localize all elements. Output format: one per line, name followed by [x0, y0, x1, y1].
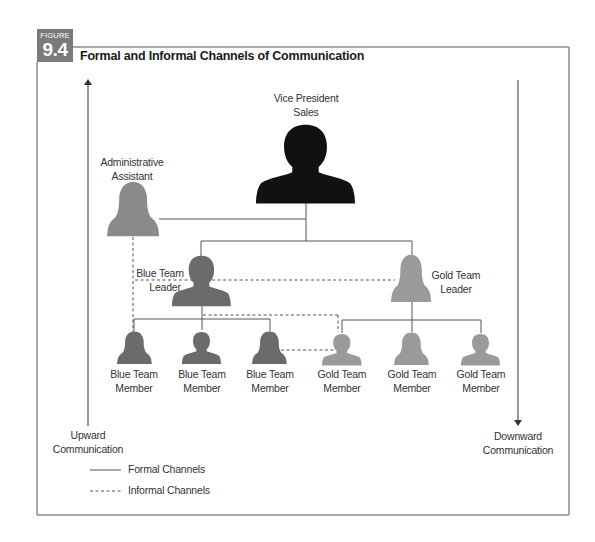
vp-label-line1: Vice President [274, 91, 339, 105]
blue-member-3-silhouette-icon [252, 332, 287, 364]
downward-label-line1: Downward [483, 429, 553, 443]
blue-leader-label: Blue Team Leader [136, 266, 184, 294]
org-chart-diagram [0, 0, 595, 542]
admin-label-line1: Administrative [100, 155, 163, 169]
gold-leader-label: Gold Team Leader [432, 268, 481, 296]
legend-formal-label: Formal Channels [128, 463, 205, 475]
vp-label-line2: Sales [274, 105, 339, 119]
member-label-line1: Blue Team [178, 367, 226, 381]
member-label-line2: Member [457, 381, 506, 395]
admin-label-line2: Assistant [100, 169, 163, 183]
member-label-line1: Gold Team [318, 367, 367, 381]
member-label: Gold Team Member [318, 367, 367, 395]
gold-leader-silhouette-icon [391, 255, 431, 302]
formal-connectors [134, 203, 481, 333]
gold-leader-label-line1: Gold Team [432, 268, 481, 282]
member-label: Blue Team Member [110, 367, 158, 395]
member-label-line1: Gold Team [388, 367, 437, 381]
vp-silhouette-icon [256, 125, 355, 204]
member-label-line1: Blue Team [246, 367, 294, 381]
upward-label-line1: Upward [53, 428, 123, 442]
blue-leader-label-line2: Leader [136, 280, 184, 294]
figure-container: FIGURE 9.4 Formal and Informal Channels … [0, 0, 595, 542]
blue-member-2-silhouette-icon [182, 332, 221, 364]
blue-member-1-silhouette-icon [117, 332, 152, 364]
member-label: Blue Team Member [178, 367, 226, 395]
member-label-line1: Gold Team [457, 367, 506, 381]
member-label-line2: Member [110, 381, 158, 395]
member-label: Gold Team Member [388, 367, 437, 395]
admin-silhouette-icon [107, 182, 159, 236]
upward-communication-label: Upward Communication [53, 428, 123, 456]
gold-member-2-silhouette-icon [394, 333, 429, 365]
legend-informal-label: Informal Channels [128, 484, 210, 496]
admin-label: Administrative Assistant [100, 155, 163, 183]
gold-leader-label-line2: Leader [432, 282, 481, 296]
downward-label-line2: Communication [483, 443, 553, 457]
member-label-line1: Blue Team [110, 367, 158, 381]
downward-communication-label: Downward Communication [483, 429, 553, 457]
member-label-line2: Member [178, 381, 226, 395]
vp-label: Vice President Sales [274, 91, 339, 119]
gold-member-3-silhouette-icon [461, 334, 500, 365]
member-label: Gold Team Member [457, 367, 506, 395]
member-label: Blue Team Member [246, 367, 294, 395]
member-label-line2: Member [246, 381, 294, 395]
member-label-line2: Member [388, 381, 437, 395]
blue-leader-label-line1: Blue Team [136, 266, 184, 280]
member-label-line2: Member [318, 381, 367, 395]
upward-label-line2: Communication [53, 442, 123, 456]
